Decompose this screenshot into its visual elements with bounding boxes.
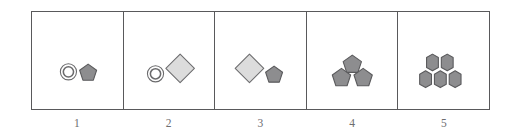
panel-1[interactable] bbox=[32, 12, 124, 109]
panel-1-stage bbox=[32, 12, 123, 109]
ring-shape bbox=[60, 64, 76, 80]
panel-2[interactable] bbox=[124, 12, 216, 109]
panel-3-stage bbox=[215, 12, 306, 109]
panel-label-4: 4 bbox=[306, 110, 398, 136]
hexagon-shape bbox=[450, 71, 462, 88]
panel-3[interactable] bbox=[215, 12, 307, 109]
panel-strip bbox=[31, 11, 490, 110]
hexagon-shape bbox=[435, 71, 447, 88]
panel-label-5: 5 bbox=[398, 110, 490, 136]
hexagon-shape bbox=[442, 54, 454, 71]
ring-shape bbox=[147, 66, 163, 82]
pentagon-shape bbox=[80, 64, 97, 80]
panel-4-stage bbox=[307, 12, 398, 109]
panel-label-2: 2 bbox=[123, 110, 215, 136]
panel-label-row: 1 2 3 4 5 bbox=[31, 110, 490, 136]
pentagon-shape bbox=[343, 55, 361, 72]
hexagon-shape bbox=[427, 54, 439, 71]
panel-5-stage bbox=[398, 12, 489, 109]
panel-label-1: 1 bbox=[31, 110, 123, 136]
panel-2-stage bbox=[124, 12, 215, 109]
panel-5[interactable] bbox=[398, 12, 489, 109]
pentagon-shape bbox=[266, 66, 283, 82]
hexagon-shape bbox=[420, 71, 432, 88]
diamond-shape bbox=[165, 54, 194, 83]
panel-label-3: 3 bbox=[215, 110, 307, 136]
panel-4[interactable] bbox=[307, 12, 399, 109]
shape-sequence-figure: 1 2 3 4 5 bbox=[0, 0, 515, 136]
diamond-shape bbox=[235, 54, 264, 83]
